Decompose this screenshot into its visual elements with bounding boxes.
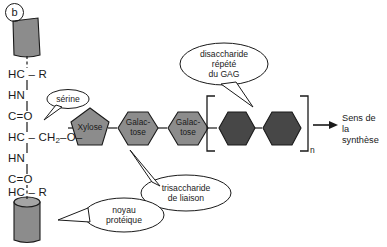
- chain-residue-co1: C=O: [8, 110, 33, 122]
- chain-residue-co2: C=O: [8, 173, 33, 185]
- repeat-bracket-left: [207, 96, 215, 151]
- repeat-unit-subscript: n: [310, 145, 315, 155]
- chain-residue-hn2: HN: [8, 152, 25, 164]
- callout-trisaccharide-label: trisaccharide de liaison: [142, 183, 230, 203]
- figure-canvas: b HC – R HN C=O HC – CH2–O– HN C=O HC – …: [0, 0, 387, 247]
- synthesis-direction-label: Sens de la synthèse: [342, 113, 387, 146]
- callout-noyau-label: noyau protéique: [86, 205, 162, 225]
- protein-core-ribbon-top: [13, 18, 40, 57]
- callout-disaccharide-label: disaccharide répété du GAG: [181, 49, 267, 79]
- protein-core-cylinder-body: [14, 202, 40, 243]
- panel-letter: b: [5, 3, 24, 22]
- sugar-gag2-hexagon: [263, 112, 301, 145]
- chain-residue-serine-main: HC – CH: [8, 131, 55, 143]
- sugar-gag1-hexagon: [219, 112, 255, 145]
- chain-residue-serine: HC – CH2–O–: [8, 131, 82, 145]
- chain-residue-r1: HC – R: [8, 68, 47, 80]
- diagram-vector-layer: [0, 0, 387, 247]
- repeat-bracket-right: [300, 96, 308, 151]
- sugar-galactose2-hexagon: [168, 112, 208, 145]
- callout-serine-label: sérine: [48, 94, 88, 104]
- sugar-galactose1-hexagon: [118, 112, 158, 145]
- chain-residue-r2: HC – R: [8, 186, 47, 198]
- chain-residue-serine-linkage: –O–: [60, 131, 82, 143]
- chain-residue-hn1: HN: [8, 89, 25, 101]
- synthesis-direction-arrow: [313, 121, 338, 129]
